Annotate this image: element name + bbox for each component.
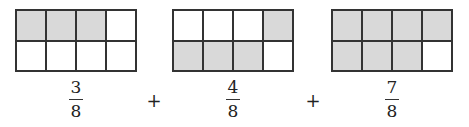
shaded-cell bbox=[392, 41, 422, 72]
denominator: 8 bbox=[218, 103, 248, 120]
numerator: 3 bbox=[61, 79, 91, 97]
denominator: 8 bbox=[61, 103, 91, 120]
grid-1 bbox=[15, 9, 137, 72]
empty-cell bbox=[422, 41, 452, 72]
shaded-cell bbox=[233, 41, 263, 72]
empty-cell bbox=[16, 41, 46, 72]
fraction-2: 4 8 bbox=[218, 79, 248, 120]
shaded-cell bbox=[16, 10, 46, 41]
shaded-cell bbox=[76, 10, 106, 41]
shaded-cell bbox=[263, 10, 293, 41]
grid-3 bbox=[331, 9, 453, 72]
empty-cell bbox=[106, 41, 136, 72]
plus-sign-1: + bbox=[146, 90, 162, 111]
grid-2 bbox=[172, 9, 294, 72]
shaded-cell bbox=[332, 41, 362, 72]
fraction-3: 7 8 bbox=[377, 79, 407, 120]
shaded-cell bbox=[362, 10, 392, 41]
shaded-cell bbox=[362, 41, 392, 72]
shaded-cell bbox=[46, 10, 76, 41]
numerator: 7 bbox=[377, 79, 407, 97]
shaded-cell bbox=[332, 10, 362, 41]
fraction-bar bbox=[385, 99, 399, 100]
shaded-cell bbox=[173, 41, 203, 72]
empty-cell bbox=[263, 41, 293, 72]
denominator: 8 bbox=[377, 103, 407, 120]
empty-cell bbox=[233, 10, 263, 41]
shaded-cell bbox=[392, 10, 422, 41]
plus-sign-2: + bbox=[305, 90, 321, 111]
shaded-cell bbox=[422, 10, 452, 41]
empty-cell bbox=[106, 10, 136, 41]
empty-cell bbox=[203, 10, 233, 41]
empty-cell bbox=[76, 41, 106, 72]
numerator: 4 bbox=[218, 79, 248, 97]
fraction-bar bbox=[69, 99, 83, 100]
empty-cell bbox=[173, 10, 203, 41]
empty-cell bbox=[46, 41, 76, 72]
shaded-cell bbox=[203, 41, 233, 72]
fraction-bar bbox=[226, 99, 240, 100]
fraction-1: 3 8 bbox=[61, 79, 91, 120]
